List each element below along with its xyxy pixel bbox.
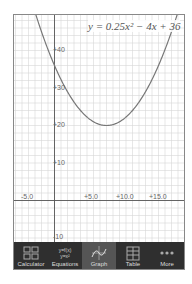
axis-tick-label: -10: [53, 233, 63, 240]
tab-equations[interactable]: y=f(x) y=x² Equations: [48, 242, 82, 269]
tab-graph[interactable]: Graph: [82, 242, 116, 269]
equation-label: y = 0.25x² − 4x + 36: [88, 20, 180, 32]
tab-table[interactable]: Table: [116, 242, 150, 269]
more-icon: [159, 245, 175, 261]
graph-icon: [91, 245, 107, 261]
tab-label: Graph: [91, 261, 108, 267]
axis-tick-label: +40: [53, 46, 65, 53]
calculator-icon: [23, 245, 39, 261]
axis-tick-label: +10: [53, 159, 65, 166]
equations-icon: y=f(x) y=x²: [59, 245, 72, 261]
tab-calculator[interactable]: Calculator: [14, 242, 48, 269]
axis-tick-label: +15.0: [149, 193, 167, 200]
tab-label: Calculator: [17, 261, 44, 267]
equations-icon-line2: y=x²: [60, 253, 70, 259]
graph-canvas[interactable]: [14, 15, 185, 270]
axis-tick-label: +5.0: [84, 193, 98, 200]
tab-label: More: [160, 261, 174, 267]
tab-label: Table: [126, 261, 140, 267]
axis-tick-label: +10.0: [116, 193, 134, 200]
axis-tick-label: -5.0: [21, 193, 33, 200]
axis-tick-label: +30: [53, 84, 65, 91]
table-icon: [126, 245, 140, 261]
tab-label: Equations: [52, 261, 79, 267]
tab-bar: Calculator y=f(x) y=x² Equations Graph T…: [14, 242, 184, 269]
axis-tick-label: +20: [53, 121, 65, 128]
graph-frame[interactable]: [13, 14, 185, 270]
tab-more[interactable]: More: [150, 242, 184, 269]
